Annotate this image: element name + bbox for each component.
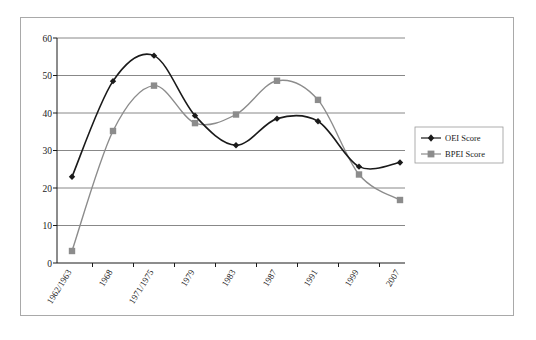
line-chart: 60 50 40 30 20 10 0 1962/1963 1968 1971/…	[0, 0, 536, 340]
data-point-square[interactable]	[151, 82, 157, 88]
data-point-diamond[interactable]	[69, 174, 75, 180]
y-tick-label-50: 50	[43, 71, 53, 81]
data-point-square[interactable]	[233, 111, 239, 117]
legend-label-oei: OEI Score	[445, 133, 481, 143]
x-tick-label-3: 1979	[179, 267, 197, 288]
data-point-diamond[interactable]	[397, 159, 403, 165]
y-tick-label-60: 60	[43, 34, 53, 44]
x-tick-label-8: 2007	[384, 267, 402, 288]
x-tick-label-1: 1968	[97, 267, 115, 288]
square-marker-icon	[428, 151, 435, 158]
y-tick-label-10: 10	[43, 221, 53, 231]
x-tick-label-2: 1971/1975	[127, 267, 156, 305]
legend-label-bpei: BPEI Score	[445, 149, 485, 159]
y-tick-label-0: 0	[47, 259, 52, 269]
gridlines	[57, 38, 405, 226]
data-point-diamond[interactable]	[274, 115, 280, 121]
data-point-square[interactable]	[192, 120, 198, 126]
data-point-square[interactable]	[315, 97, 321, 103]
data-point-square[interactable]	[110, 128, 116, 134]
x-axis-tick-labels: 1962/1963 1968 1971/1975 1979 1983 1987 …	[45, 267, 402, 305]
x-axis-ticks	[93, 263, 380, 267]
data-point-diamond[interactable]	[233, 142, 239, 148]
data-point-square[interactable]	[397, 197, 403, 203]
x-tick-label-5: 1987	[261, 267, 279, 288]
x-tick-label-0: 1962/1963	[45, 267, 74, 305]
y-tick-label-20: 20	[43, 184, 53, 194]
y-tick-label-30: 30	[43, 146, 53, 156]
chart-container: 60 50 40 30 20 10 0 1962/1963 1968 1971/…	[0, 0, 536, 340]
y-axis-ticks	[53, 38, 57, 263]
chart-legend: OEI Score BPEI Score	[415, 127, 503, 163]
y-tick-label-40: 40	[43, 109, 53, 119]
data-point-square[interactable]	[274, 78, 280, 84]
data-point-diamond[interactable]	[151, 52, 157, 58]
y-axis-tick-labels: 60 50 40 30 20 10 0	[43, 34, 53, 269]
series-bpei-score	[69, 78, 403, 255]
data-point-square[interactable]	[356, 171, 362, 177]
data-point-square[interactable]	[69, 248, 75, 254]
x-tick-label-6: 1991	[302, 268, 320, 289]
x-tick-label-4: 1983	[220, 267, 238, 288]
x-tick-label-7: 1999	[343, 267, 361, 288]
